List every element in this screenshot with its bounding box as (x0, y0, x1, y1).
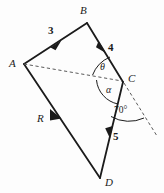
point-label-d: D (105, 177, 113, 188)
vector-ab-line (24, 23, 87, 64)
vector-ab-magnitude-label: 3 (48, 25, 54, 36)
angle-alpha-label: α (106, 85, 111, 95)
point-label-b: B (80, 5, 87, 16)
point-label-a: A (9, 58, 16, 69)
dashed-extension-beyond-c (124, 83, 157, 136)
vector-figure-canvas (0, 0, 164, 193)
angle-seventy-arc (111, 117, 144, 122)
vector-cd-magnitude-label: 5 (113, 131, 119, 142)
vector-ad-magnitude-label: R (37, 113, 44, 124)
vector-ad-line (24, 64, 100, 178)
point-label-c: C (128, 73, 135, 84)
angle-seventy-label: 70° (114, 106, 127, 116)
vector-diagram-figure: A B C D 3 4 5 R θ α 70° (0, 0, 164, 193)
angle-theta-label: θ (100, 62, 105, 72)
vector-bc-magnitude-label: 4 (108, 42, 114, 53)
vector-bc-arrowhead (96, 41, 106, 53)
vector-bc-line (87, 23, 123, 82)
dashed-diagonal-ac (24, 64, 122, 81)
